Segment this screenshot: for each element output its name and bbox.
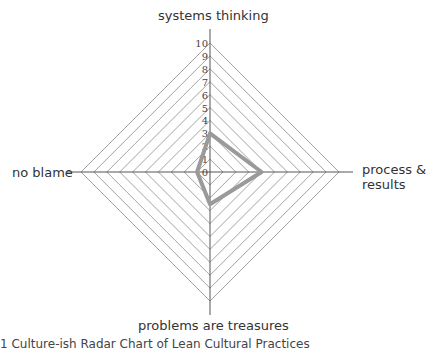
tick-label: 4 [202, 115, 208, 126]
axis-label-right-line2: results [362, 177, 426, 192]
tick-label: 5 [202, 103, 208, 114]
tick-label: 6 [202, 90, 208, 101]
axis-label-right: process & results [362, 162, 426, 192]
axis-label-left: no blame [12, 165, 73, 180]
axis-label-bottom: problems are treasures [138, 318, 289, 333]
tick-label: 0 [202, 167, 208, 178]
figure-caption: 1 Culture-ish Radar Chart of Lean Cultur… [0, 337, 310, 351]
tick-label: 9 [202, 51, 208, 62]
axis-label-right-line1: process & [362, 162, 426, 177]
tick-label: 7 [202, 77, 208, 88]
axis-label-top: systems thinking [158, 8, 269, 23]
tick-label: 8 [202, 64, 208, 75]
tick-label: 10 [195, 38, 208, 49]
